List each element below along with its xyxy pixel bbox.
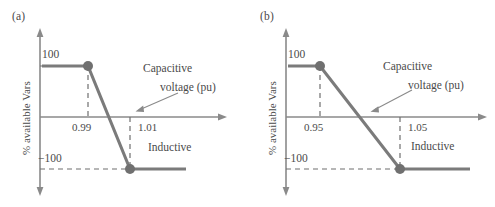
panel-a-xtick-lower: 0.99 <box>72 121 91 134</box>
panel-a-plot <box>0 0 247 207</box>
panel-b-annotation-capacitive: Capacitive <box>383 60 432 73</box>
panel-b-xtick-upper: 1.05 <box>408 121 427 134</box>
panel-b-y-axis-title: % available Vars <box>266 81 278 155</box>
panel-a-marker-upper-breakpoint <box>83 61 93 71</box>
panel-b-label-inductive: Inductive <box>411 140 454 153</box>
panel-a-y-axis-title: % available Vars <box>20 81 32 155</box>
panel-b-ytick-100: 100 <box>288 48 305 61</box>
panel-b-marker-upper-breakpoint <box>315 61 325 71</box>
panel-b-y-axis-arrow-up <box>283 28 290 37</box>
panel-a-marker-lower-breakpoint <box>125 164 135 174</box>
panel-b-x-axis-arrow-right <box>478 114 487 121</box>
panel-a-x-axis-arrow-right <box>218 114 227 121</box>
panel-a-y-axis-arrow-up <box>37 28 44 37</box>
panel-b-y-axis-arrow-down <box>283 187 290 196</box>
panel-a-ytick-100: 100 <box>42 48 59 61</box>
panel-b-annotation-voltage-pu: voltage (pu) <box>408 79 464 92</box>
panel-b-marker-lower-breakpoint <box>395 164 405 174</box>
panel-a-annotation-leader <box>139 93 178 110</box>
panel-a: (a) % availab <box>0 0 247 207</box>
panel-b-annotation-leader <box>374 90 412 110</box>
panel-b-plot <box>248 0 495 207</box>
panel-b-ytick-neg100: −100 <box>284 152 308 165</box>
panel-b-xtick-lower: 0.95 <box>304 121 323 134</box>
panel-a-label-inductive: Inductive <box>148 141 191 154</box>
panel-a-annotation-voltage-pu: voltage (pu) <box>160 81 216 94</box>
panel-a-annotation-arrowhead <box>136 106 145 112</box>
panel-a-ytick-neg100: −100 <box>38 152 62 165</box>
panel-b-annotation-arrowhead <box>371 106 380 112</box>
figure-container: (a) % availab <box>0 0 495 207</box>
panel-a-xtick-upper: 1.01 <box>138 121 157 134</box>
panel-b: (b) % available Vars <box>248 0 495 207</box>
panel-a-annotation-capacitive: Capacitive <box>143 62 192 75</box>
panel-a-y-axis-arrow-down <box>37 187 44 196</box>
